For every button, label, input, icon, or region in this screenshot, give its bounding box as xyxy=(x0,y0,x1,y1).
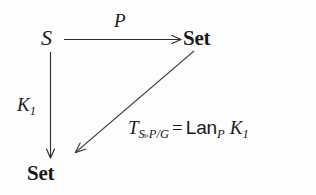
formula-T-base: T xyxy=(128,117,139,138)
node-source-S: S xyxy=(41,27,52,49)
formula-sub-G: G xyxy=(160,127,169,141)
formula-T-subscript: S▹P/G xyxy=(139,127,169,141)
label-diagonal-formula: TS▹P/G=LanPK1 xyxy=(128,118,249,140)
node-target-set-top: Set xyxy=(183,28,210,49)
label-K-base: K xyxy=(17,94,30,115)
label-K-subscript: 1 xyxy=(30,104,36,118)
formula-lan-subscript: P xyxy=(217,127,225,141)
label-top-arrow-P: P xyxy=(114,11,126,30)
formula-K-base: K xyxy=(225,117,243,138)
formula-lan-operator: Lan xyxy=(186,117,217,138)
formula-equals-sign: = xyxy=(169,117,186,138)
node-target-set-bottom: Set xyxy=(27,163,54,184)
formula-K-subscript: 1 xyxy=(242,127,248,141)
commutative-diagram-canvas: S Set Set P K1 TS▹P/G=LanPK1 xyxy=(0,0,316,195)
label-left-arrow-K1: K1 xyxy=(17,95,36,117)
